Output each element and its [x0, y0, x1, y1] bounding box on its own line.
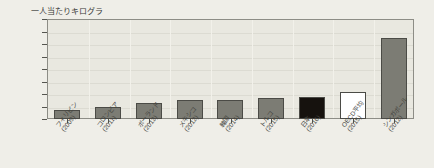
y-axis-tick-mark [42, 119, 47, 120]
bar-slot [292, 19, 333, 119]
bar-slot [47, 19, 88, 119]
bar-chart: 一人当たりキログラ 1,6001,4001,2001,0008006004002… [0, 0, 434, 168]
x-axis-labels: フィリピン(2009)コロンビア(2011)ポーランド(2013)メキシコ(20… [47, 124, 414, 168]
bar-slot [88, 19, 129, 119]
bar-slot [210, 19, 251, 119]
y-axis-title: 一人当たりキログラ [31, 5, 103, 16]
bar-slot [129, 19, 170, 119]
bar-slot [169, 19, 210, 119]
bar-slot [251, 19, 292, 119]
bar-slot [332, 19, 373, 119]
